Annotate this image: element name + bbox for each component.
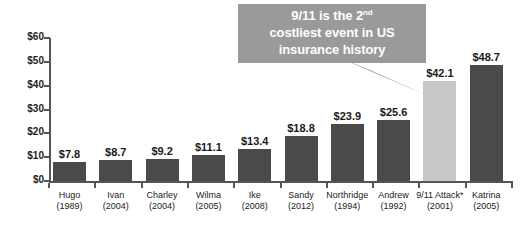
category-name: Charley xyxy=(136,190,189,201)
bar xyxy=(470,65,503,181)
bar-value-label: $11.1 xyxy=(183,141,234,153)
bar xyxy=(238,149,271,181)
category-name: Ivan xyxy=(89,190,142,201)
x-axis-tick xyxy=(141,183,143,188)
x-axis-category-label: Ivan(2004) xyxy=(89,190,142,212)
x-axis-tick xyxy=(94,183,96,188)
x-axis-category-label: Wilma(2005) xyxy=(182,190,235,212)
category-name: Ike xyxy=(228,190,281,201)
x-axis-category-label: 9/11 Attack*(2001) xyxy=(413,190,466,212)
y-axis-label: $10 xyxy=(2,151,44,161)
bar xyxy=(192,155,225,181)
category-year: (2008) xyxy=(228,201,281,212)
y-axis-tick xyxy=(44,85,50,87)
category-year: (2004) xyxy=(89,201,142,212)
bar xyxy=(331,124,364,181)
bar-value-label: $7.8 xyxy=(44,148,95,160)
x-axis-tick xyxy=(326,183,328,188)
y-axis-tick xyxy=(44,61,50,63)
x-axis-category-label: Sandy(2012) xyxy=(275,190,328,212)
category-year: (1992) xyxy=(367,201,420,212)
y-axis-label: $30 xyxy=(2,104,44,114)
x-axis-tick xyxy=(511,183,513,188)
y-axis-label: $20 xyxy=(2,127,44,137)
y-axis-label: $0 xyxy=(2,175,44,185)
category-year: (2004) xyxy=(136,201,189,212)
category-year: (2005) xyxy=(460,201,513,212)
category-name: Katrina xyxy=(460,190,513,201)
x-axis-tick xyxy=(372,183,374,188)
category-year: (2001) xyxy=(413,201,466,212)
bar-value-label: $48.7 xyxy=(461,51,512,63)
bar-value-label: $13.4 xyxy=(229,135,280,147)
x-axis-tick xyxy=(48,183,50,188)
x-axis-category-label: Ike(2008) xyxy=(228,190,281,212)
category-year: (2005) xyxy=(182,201,235,212)
category-name: Hugo xyxy=(43,190,96,201)
category-name: Wilma xyxy=(182,190,235,201)
category-name: Sandy xyxy=(275,190,328,201)
y-axis-label: $50 xyxy=(2,56,44,66)
bar-chart: $0$10$20$30$40$50$60 $7.8Hugo(1989)$8.7I… xyxy=(0,0,529,227)
y-axis-label: $40 xyxy=(2,80,44,90)
y-axis-label: $60 xyxy=(2,32,44,42)
x-axis-tick xyxy=(187,183,189,188)
category-year: (1989) xyxy=(43,201,96,212)
callout-text: 9/11 is the 2ndcostliest event in USinsu… xyxy=(238,4,426,58)
bar-value-label: $18.8 xyxy=(276,122,327,134)
x-axis-tick xyxy=(465,183,467,188)
bar xyxy=(99,160,132,181)
category-name: Andrew xyxy=(367,190,420,201)
x-axis-category-label: Andrew(1992) xyxy=(367,190,420,212)
x-axis-tick xyxy=(280,183,282,188)
bar xyxy=(146,159,179,181)
x-axis-category-label: Charley(2004) xyxy=(136,190,189,212)
x-axis-category-label: Katrina(2005) xyxy=(460,190,513,212)
y-axis-tick xyxy=(44,109,50,111)
callout-ordinal-suffix: nd xyxy=(363,8,373,17)
bar xyxy=(423,81,456,181)
category-year: (2012) xyxy=(275,201,328,212)
callout-line-2: costliest event in US xyxy=(238,24,426,41)
callout-box: 9/11 is the 2ndcostliest event in USinsu… xyxy=(238,4,426,63)
bar xyxy=(285,136,318,181)
x-axis-category-label: Northridge(1994) xyxy=(321,190,374,212)
bar xyxy=(53,162,86,181)
bar-value-label: $23.9 xyxy=(322,110,373,122)
bar-value-label: $9.2 xyxy=(137,145,188,157)
callout-line-1: 9/11 is the 2nd xyxy=(238,7,426,24)
y-axis-tick xyxy=(44,37,50,39)
y-axis-tick xyxy=(44,132,50,134)
bar-value-label: $25.6 xyxy=(368,106,419,118)
x-axis-category-label: Hugo(1989) xyxy=(43,190,96,212)
bar xyxy=(377,120,410,181)
x-axis-tick xyxy=(418,183,420,188)
x-axis-tick xyxy=(233,183,235,188)
category-name: 9/11 Attack* xyxy=(413,190,466,201)
category-name: Northridge xyxy=(321,190,374,201)
callout-line-3: insurance history xyxy=(238,41,426,58)
bar-value-label: $42.1 xyxy=(414,67,465,79)
bar-value-label: $8.7 xyxy=(90,146,141,158)
category-year: (1994) xyxy=(321,201,374,212)
